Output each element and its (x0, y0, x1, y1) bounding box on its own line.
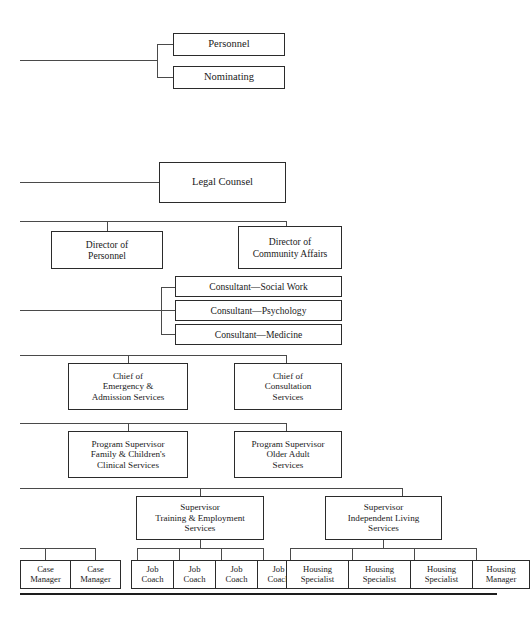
node-chief-emergency-admission[interactable]: Chief of Emergency & Admission Services (68, 363, 188, 410)
connector-committee-bracket (157, 44, 158, 77)
connector-to-personnel (157, 44, 173, 45)
connector-drop-housing-specialist-2 (352, 548, 353, 560)
connector-drop-housing-specialist-1 (290, 548, 291, 560)
connector-drop-housing-specialist-3 (414, 548, 415, 560)
connector-trunk-consultants (20, 310, 161, 311)
connector-supervisor-training-stem (200, 540, 201, 548)
connector-drop-job-coach-2 (179, 548, 180, 560)
node-legal-counsel[interactable]: Legal Counsel (159, 162, 286, 203)
connector-to-nominating (157, 77, 173, 78)
node-supervisor-training-employment[interactable]: Supervisor Training & Employment Service… (136, 496, 264, 540)
node-case-manager-2[interactable]: Case Manager (70, 560, 121, 589)
node-job-coach-1[interactable]: Job Coach (131, 560, 174, 589)
connector-trunk-supervisors (20, 488, 402, 489)
connector-drop-job-coach-1 (137, 548, 138, 560)
node-housing-specialist-1[interactable]: Housing Specialist (286, 560, 349, 589)
node-nominating[interactable]: Nominating (173, 66, 285, 89)
connector-trunk-committees (20, 60, 157, 61)
connector-bar-housing-staff (290, 548, 476, 549)
connector-trunk-directors (20, 221, 286, 222)
node-director-community-affairs[interactable]: Director of Community Affairs (238, 226, 342, 269)
node-housing-manager[interactable]: Housing Manager (472, 560, 530, 589)
node-housing-specialist-2[interactable]: Housing Specialist (348, 560, 411, 589)
node-director-personnel[interactable]: Director of Personnel (51, 231, 163, 269)
connector-trunk-legal-counsel (20, 182, 159, 183)
connector-to-consultant-psychology (161, 310, 175, 311)
connector-drop-housing-manager (476, 548, 477, 560)
node-supervisor-independent-living[interactable]: Supervisor Independent Living Services (325, 496, 442, 540)
node-housing-specialist-3[interactable]: Housing Specialist (410, 560, 473, 589)
connector-drop-job-coach-4 (263, 548, 264, 560)
node-program-supervisor-older-adult[interactable]: Program Supervisor Older Adult Services (234, 431, 342, 478)
connector-to-consultant-social-work (161, 287, 175, 288)
node-personnel[interactable]: Personnel (173, 33, 285, 56)
node-program-supervisor-family[interactable]: Program Supervisor Family & Children's C… (68, 431, 188, 478)
node-consultant-medicine[interactable]: Consultant—Medicine (175, 324, 342, 345)
connector-trunk-chiefs (20, 355, 286, 356)
node-consultant-psychology[interactable]: Consultant—Psychology (175, 300, 342, 321)
node-job-coach-3[interactable]: Job Coach (215, 560, 258, 589)
connector-drop-case-manager-1 (45, 548, 46, 560)
connector-supervisor-independent-stem (383, 540, 384, 548)
connector-trunk-case-managers (20, 548, 95, 549)
connector-to-consultant-medicine (161, 334, 175, 335)
node-case-manager-1[interactable]: Case Manager (20, 560, 71, 589)
connector-drop-job-coach-3 (221, 548, 222, 560)
node-consultant-social-work[interactable]: Consultant—Social Work (175, 276, 342, 297)
node-chief-consultation[interactable]: Chief of Consultation Services (234, 363, 342, 410)
connector-trunk-program-supervisors (20, 423, 286, 424)
connector-drop-case-manager-2 (95, 548, 96, 560)
node-job-coach-2[interactable]: Job Coach (173, 560, 216, 589)
connector-bar-job-coaches (137, 548, 263, 549)
baseline-rule (20, 593, 497, 595)
